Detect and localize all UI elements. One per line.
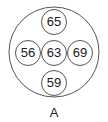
node-label-63: 63 <box>42 46 66 60</box>
node-label-65: 65 <box>42 15 66 29</box>
diagram-caption: A <box>42 106 66 120</box>
node-label-69: 69 <box>68 46 92 60</box>
node-label-59: 59 <box>42 76 66 90</box>
node-label-56: 56 <box>16 46 40 60</box>
